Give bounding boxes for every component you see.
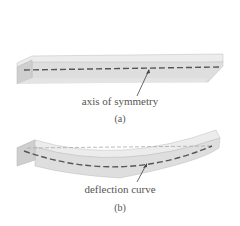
deflected-beam [17,130,220,182]
straight-beam [17,54,223,96]
figure-b-caption: (b) [114,202,126,214]
beam-end-face [17,140,35,166]
figure-a-caption: (a) [114,113,125,125]
beam-diagram: axis of symmetry (a) deflection curve (b… [0,0,240,226]
axis-of-symmetry-label: axis of symmetry [82,95,159,107]
deflection-curve-label: deflection curve [84,183,155,195]
beam-bottom-face [17,78,208,84]
